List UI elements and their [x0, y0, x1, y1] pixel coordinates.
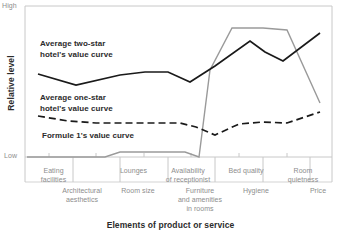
category-label-bottom-3: Hygiene: [232, 186, 280, 195]
category-label-top-0: Eating facilities: [26, 166, 81, 184]
annotation-formule-1: Formule 1's value curve: [42, 131, 134, 142]
category-label-bottom-0: Architectural aesthetics: [46, 186, 118, 204]
category-label-top-4: Room quietness: [272, 166, 334, 184]
chart-canvas: High Low Relative level Elements of prod…: [0, 0, 341, 235]
y-axis-low-label: Low: [4, 152, 17, 159]
category-label-bottom-4: Price: [300, 186, 336, 195]
annotation-two-star: Average two-star hotel's value curve: [40, 39, 113, 60]
annotation-one-star: Average one-star hotel's value curve: [40, 93, 113, 114]
x-axis-title: Elements of product or service: [0, 220, 341, 230]
y-axis-high-label: High: [2, 2, 17, 9]
category-label-bottom-1: Room size: [110, 186, 166, 195]
category-label-bottom-2: Furniture and amenities in rooms: [168, 186, 232, 213]
category-label-top-3: Bed quality: [215, 166, 277, 175]
y-axis-title: Relative level: [6, 48, 16, 118]
